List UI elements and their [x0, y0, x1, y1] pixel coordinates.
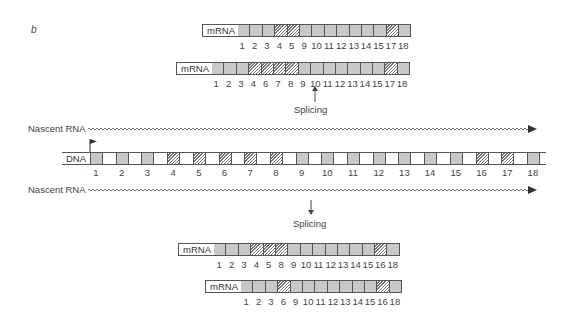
exon-number: 15 — [372, 40, 384, 51]
exon-number: 14 — [352, 296, 364, 307]
mrna-exon-18 — [387, 243, 399, 256]
dna-exon-9 — [296, 152, 309, 165]
panel-label: b — [31, 24, 37, 35]
mrna-exon-5 — [288, 24, 300, 37]
mrna-exon-12 — [336, 62, 348, 75]
mrna-exon-16 — [375, 243, 387, 256]
dna-exon-number: 11 — [345, 167, 361, 178]
dna-exon-number: 13 — [396, 167, 412, 178]
exon-number: 7 — [272, 78, 284, 89]
exon-number: 10 — [300, 259, 312, 270]
exon-number: 11 — [314, 296, 326, 307]
dna-exon-16 — [476, 152, 489, 165]
mrna-exon-13 — [348, 62, 360, 75]
dna-exon-14 — [424, 152, 437, 165]
dna-exon-number: 9 — [294, 167, 310, 178]
mrna-exon-1 — [238, 24, 250, 37]
exon-number: 3 — [238, 259, 250, 270]
exon-number: 14 — [360, 40, 372, 51]
dna-exon-number: 7 — [242, 167, 258, 178]
exon-number: 12 — [325, 259, 337, 270]
exon-number: 3 — [265, 296, 277, 307]
mrna-exon-4 — [251, 243, 263, 256]
mrna-exon-6 — [262, 62, 274, 75]
exon-number: 8 — [275, 259, 287, 270]
exon-number: 9 — [298, 40, 310, 51]
exon-number: 2 — [252, 296, 264, 307]
dna-exon-4 — [167, 152, 180, 165]
mrna-exon-9 — [288, 243, 300, 256]
mrna-label: mRNA — [202, 24, 238, 37]
dna-exon-13 — [398, 152, 411, 165]
exon-number: 18 — [396, 78, 408, 89]
dna-exon-2 — [116, 152, 129, 165]
nascent-rna-wave-bottom — [88, 185, 538, 195]
mrna-exon-4 — [249, 62, 261, 75]
exon-number: 1 — [213, 259, 225, 270]
exon-number: 13 — [337, 259, 349, 270]
mrna-exon-9 — [291, 280, 303, 293]
exon-number: 4 — [273, 40, 285, 51]
mrna-exon-17 — [387, 24, 399, 37]
exon-number: 1 — [236, 40, 248, 51]
dna-exon-12 — [373, 152, 386, 165]
exon-number: 16 — [374, 259, 386, 270]
mrna-exon-16 — [377, 280, 389, 293]
exon-number: 18 — [397, 40, 409, 51]
exon-number: 5 — [263, 259, 275, 270]
mrna-top-1-exon-numbers: 1234591011121314151718 — [236, 40, 409, 51]
dna-exon-6 — [219, 152, 232, 165]
exon-number: 5 — [286, 40, 298, 51]
mrna-exon-15 — [373, 62, 385, 75]
mrna-exon-13 — [350, 24, 362, 37]
exon-number: 14 — [349, 259, 361, 270]
exon-number: 10 — [310, 40, 322, 51]
mrna-top-2: mRNA — [176, 62, 410, 75]
mrna-exon-2 — [250, 24, 262, 37]
exon-number: 6 — [277, 296, 289, 307]
mrna-exon-15 — [365, 280, 377, 293]
splicing-label-top: Splicing — [294, 104, 327, 115]
dna-exon-number: 8 — [268, 167, 284, 178]
exon-number: 2 — [225, 259, 237, 270]
mrna-exon-8 — [276, 243, 288, 256]
exon-number: 12 — [327, 296, 339, 307]
mrna-exon-8 — [286, 62, 298, 75]
transcription-start-flag-icon — [89, 139, 99, 152]
dna-exon-number: 6 — [217, 167, 233, 178]
exon-number: 9 — [290, 296, 302, 307]
exon-number: 2 — [248, 40, 260, 51]
mrna-label: mRNA — [178, 243, 214, 256]
exon-number: 17 — [383, 78, 395, 89]
mrna-exon-1 — [241, 280, 253, 293]
mrna-top-2-exon-numbers: 123467891011121314151718 — [210, 78, 408, 89]
exon-number: 17 — [385, 40, 397, 51]
mrna-exon-3 — [266, 280, 278, 293]
mrna-top-1: mRNA — [202, 24, 411, 37]
exon-number: 12 — [335, 40, 347, 51]
exon-number: 9 — [287, 259, 299, 270]
dna-exon-number: 3 — [139, 167, 155, 178]
nascent-rna-label-bottom: Nascent RNA — [28, 184, 86, 195]
dna-exon-number: 4 — [165, 167, 181, 178]
mrna-exon-10 — [301, 243, 313, 256]
exon-number: 18 — [389, 296, 401, 307]
mrna-exon-9 — [299, 62, 311, 75]
exon-number: 13 — [348, 40, 360, 51]
dna-exon-number: 18 — [525, 167, 541, 178]
dna-exon-5 — [193, 152, 206, 165]
dna-exon-number: 14 — [422, 167, 438, 178]
splicing-label-bottom: Splicing — [293, 218, 326, 229]
dna-exon-8 — [270, 152, 283, 165]
exon-number: 1 — [240, 296, 252, 307]
mrna-exon-11 — [324, 62, 336, 75]
dna-exon-17 — [501, 152, 514, 165]
splicing-up-arrow-icon — [311, 86, 319, 102]
exon-number: 16 — [376, 296, 388, 307]
mrna-exon-14 — [353, 280, 365, 293]
exon-number: 4 — [247, 78, 259, 89]
mrna-exon-15 — [363, 243, 375, 256]
exon-number: 4 — [250, 259, 262, 270]
mrna-exon-11 — [313, 243, 325, 256]
dna-exon-number: 5 — [191, 167, 207, 178]
